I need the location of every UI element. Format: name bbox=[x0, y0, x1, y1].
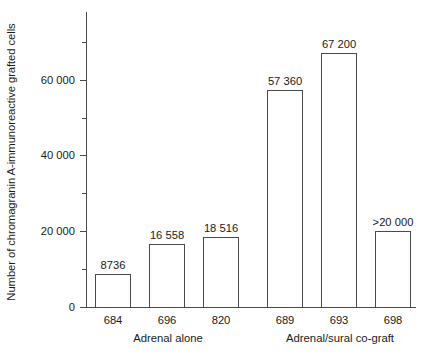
y-tick-minor-30000 bbox=[82, 193, 87, 194]
y-tick-label-20000: 20 000 bbox=[41, 223, 75, 239]
y-tick-label-60000: 60 000 bbox=[41, 72, 75, 88]
bar-value-696: 16 558 bbox=[150, 228, 184, 243]
bar-value-689: 57 360 bbox=[268, 74, 302, 89]
x-tick-label-689: 689 bbox=[276, 313, 295, 328]
y-tick-minor-70000 bbox=[82, 42, 87, 43]
y-tick-minor-10000 bbox=[82, 269, 87, 270]
bar-value-820: 18 516 bbox=[204, 221, 238, 236]
y-tick-minor-50000 bbox=[82, 118, 87, 119]
x-tick-label-698: 698 bbox=[384, 313, 403, 328]
x-tick-label-684: 684 bbox=[104, 313, 123, 328]
y-axis-title: Number of chromagranin A-immunoreactive … bbox=[2, 2, 20, 322]
plot-area: 0 20 000 40 000 60 000 8736 16 558 18 51… bbox=[86, 12, 416, 308]
caption-strip bbox=[6, 344, 306, 354]
bar-value-684: 8736 bbox=[101, 258, 126, 273]
y-axis-line bbox=[86, 12, 87, 308]
y-tick-label-0: 0 bbox=[69, 299, 75, 315]
bar-820[interactable]: 18 516 bbox=[203, 237, 239, 307]
bar-698[interactable]: >20 000 bbox=[375, 231, 411, 307]
bar-chart-figure: Number of chromagranin A-immunoreactive … bbox=[0, 0, 427, 357]
x-tick-label-696: 696 bbox=[158, 313, 177, 328]
bar-696[interactable]: 16 558 bbox=[149, 244, 185, 307]
bar-value-698: >20 000 bbox=[373, 215, 414, 230]
x-tick-label-693: 693 bbox=[330, 313, 349, 328]
y-tick-20000: 20 000 bbox=[80, 231, 86, 232]
y-tick-60000: 60 000 bbox=[80, 80, 86, 81]
y-tick-40000: 40 000 bbox=[80, 155, 86, 156]
y-tick-label-40000: 40 000 bbox=[41, 147, 75, 163]
x-axis-line bbox=[86, 307, 416, 308]
bar-689[interactable]: 57 360 bbox=[267, 90, 303, 307]
x-tick-label-820: 820 bbox=[212, 313, 231, 328]
bar-684[interactable]: 8736 bbox=[95, 274, 131, 307]
bar-693[interactable]: 67 200 bbox=[321, 53, 357, 307]
bar-value-693: 67 200 bbox=[322, 37, 356, 52]
y-tick-0: 0 bbox=[80, 307, 86, 308]
